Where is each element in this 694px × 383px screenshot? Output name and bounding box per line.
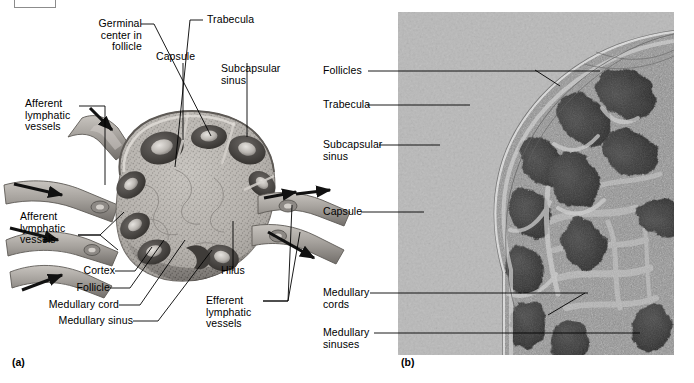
label-b-subcapsular-sinus: Subcapsular sinus: [323, 139, 382, 162]
label-germinal-center: Germinal center in follicle: [66, 18, 142, 53]
panel-tag-a: (a): [12, 356, 25, 368]
label-afferent-lymphatic-vessels-lower: Afferent lymphatic vessels: [20, 211, 65, 246]
label-medullary-sinuses: Medullary sinuses: [323, 327, 369, 350]
label-hilus: Hilus: [221, 265, 245, 277]
label-b-capsule: Capsule: [323, 206, 362, 218]
label-trabecula: Trabecula: [207, 14, 254, 26]
label-medullary-cord: Medullary cord: [29, 299, 119, 311]
efferent-vessel-group: [252, 190, 350, 264]
label-subcapsular-sinus: Subcapsular sinus: [221, 63, 280, 86]
photomicrograph-panel-b: [398, 12, 674, 355]
panel-tag-b: (b): [401, 356, 414, 368]
label-medullary-sinus: Medullary sinus: [37, 315, 133, 327]
crop-marker-box: [14, 0, 56, 8]
label-efferent-lymphatic-vessels: Efferent lymphatic vessels: [206, 295, 251, 330]
figure-lymph-node: Germinal center in follicle Capsule Trab…: [0, 0, 694, 383]
label-capsule: Capsule: [156, 51, 195, 63]
label-afferent-lymphatic-vessels-upper: Afferent lymphatic vessels: [25, 98, 70, 133]
lymph-node-body: [111, 111, 281, 281]
follicle-group: [111, 124, 281, 275]
label-follicles: Follicles: [323, 65, 362, 77]
label-cortex: Cortex: [55, 265, 115, 277]
label-follicle: Follicle: [50, 282, 110, 294]
label-medullary-cords: Medullary cords: [323, 287, 369, 310]
label-b-trabecula: Trabecula: [323, 99, 370, 111]
